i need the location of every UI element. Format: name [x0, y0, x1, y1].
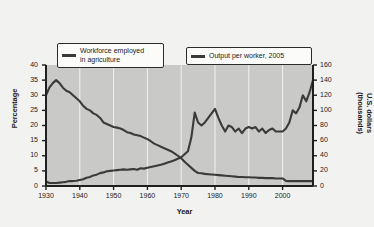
y-tick-label-left: 10 — [18, 151, 38, 158]
legend-label-output: Output per worker, 2005 — [209, 52, 284, 61]
legend-item-output: Output per worker, 2005 — [186, 47, 312, 65]
y-tick-label-right: 0 — [320, 182, 342, 189]
y-tick-label-right: 160 — [320, 61, 342, 68]
y-tick-label-left: 0 — [18, 182, 38, 189]
y-tick-label-left: 30 — [18, 91, 38, 98]
y-tick-label-right: 20 — [320, 166, 342, 173]
x-axis-title: Year — [0, 207, 369, 216]
y-tick-label-right: 40 — [320, 151, 342, 158]
legend-item-workforce: Workforce employed in agriculture — [57, 43, 164, 68]
y-tick-label-right: 120 — [320, 91, 342, 98]
y-tick-label-right: 100 — [320, 106, 342, 113]
legend-swatch-workforce — [62, 54, 76, 57]
x-tick-label: 2000 — [263, 192, 303, 199]
legend-swatch-output — [191, 55, 205, 58]
y-tick-label-right: 80 — [320, 121, 342, 128]
y-axis-right-title: U.S. dollars (thousands) — [356, 73, 374, 153]
y-tick-label-left: 15 — [18, 136, 38, 143]
y-tick-label-left: 20 — [18, 121, 38, 128]
y-tick-label-left: 35 — [18, 76, 38, 83]
plot-background — [46, 65, 313, 186]
legend-label-workforce: Workforce employed in agriculture — [80, 47, 144, 64]
y-tick-label-right: 140 — [320, 76, 342, 83]
y-tick-label-left: 40 — [18, 61, 38, 68]
y-tick-label-left: 5 — [18, 166, 38, 173]
y-tick-label-right: 60 — [320, 136, 342, 143]
y-tick-label-left: 25 — [18, 106, 38, 113]
